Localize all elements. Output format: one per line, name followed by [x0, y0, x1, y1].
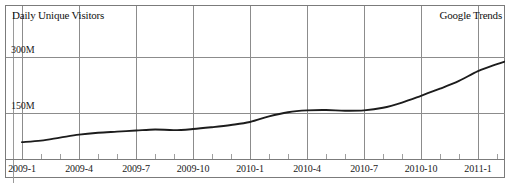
google-trends-chart: 300M150M 2009-12009-42009-72009-102010-1…	[0, 0, 512, 184]
x-axis-tick-label: 2010-7	[350, 162, 378, 176]
horizontal-gridlines	[6, 58, 505, 114]
x-axis-tick-label: 2010-4	[293, 162, 321, 176]
vertical-gridlines	[23, 6, 479, 159]
y-axis-tick-label: 300M	[11, 44, 35, 56]
x-axis-tick-label: 2009-1	[8, 162, 36, 176]
chart-source-label: Google Trends	[440, 8, 503, 22]
x-axis-labels: 2009-12009-42009-72009-102010-12010-4201…	[6, 159, 505, 178]
x-axis-tick-label: 2009-7	[122, 162, 150, 176]
x-axis-tick-label: 2010-1	[236, 162, 264, 176]
x-axis-tick-label: 2010-10	[405, 162, 438, 176]
data-series-line	[22, 49, 505, 142]
x-axis-tick-label: 2009-10	[177, 162, 210, 176]
plot-canvas	[6, 6, 505, 159]
plot-area	[6, 6, 505, 159]
chart-title: Daily Unique Visitors	[12, 8, 104, 22]
x-axis-tick-label: 2009-4	[65, 162, 93, 176]
series-path	[22, 49, 505, 142]
x-axis-tick-label: 2011-1	[464, 162, 491, 176]
y-axis-tick-label: 150M	[11, 100, 35, 112]
